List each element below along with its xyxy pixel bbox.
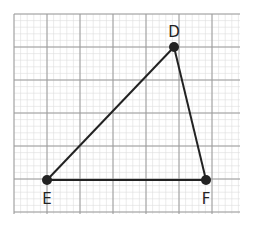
vertex-label-E: E	[42, 190, 51, 208]
vertex-D	[169, 42, 179, 52]
vertex-label-F: F	[202, 190, 211, 208]
triangle-diagram: DEF	[0, 0, 259, 226]
vertex-F	[201, 175, 211, 185]
vertex-E	[42, 175, 52, 185]
vertex-label-D: D	[168, 23, 180, 41]
